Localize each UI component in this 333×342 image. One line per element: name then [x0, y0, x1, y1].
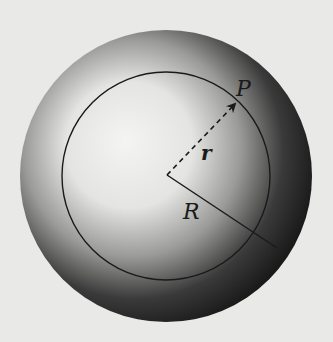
outer-sphere	[20, 30, 312, 322]
R-label: R	[182, 199, 200, 224]
sphere-diagram: P r R	[0, 0, 333, 342]
r-label: r	[201, 141, 213, 165]
point-P-label: P	[235, 76, 252, 101]
